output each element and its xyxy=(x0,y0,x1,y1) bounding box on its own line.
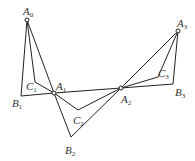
line-b1-b3 xyxy=(21,84,173,96)
label-a0: A0 xyxy=(22,5,34,19)
label-a3: A3 xyxy=(176,17,188,31)
label-b1: B1 xyxy=(12,97,23,111)
point-a0 xyxy=(25,18,29,22)
label-b3: B3 xyxy=(175,86,186,100)
point-a2 xyxy=(119,86,123,90)
line-a0-c1 xyxy=(27,20,35,82)
label-a2: A2 xyxy=(120,93,132,107)
geometry-diagram: A0 A1 A2 A3 B1 B2 B3 C1 C2 C3 xyxy=(0,0,195,161)
label-b2: B2 xyxy=(65,144,76,158)
label-a1: A1 xyxy=(55,80,67,94)
line-a0-b2 xyxy=(27,20,71,137)
point-a3 xyxy=(176,29,180,33)
line-b3-a3 xyxy=(173,31,178,84)
line-c2-c3 xyxy=(78,77,158,110)
line-b2-a3 xyxy=(71,31,178,137)
label-c3: C3 xyxy=(158,67,169,81)
label-c2: C2 xyxy=(73,114,84,128)
